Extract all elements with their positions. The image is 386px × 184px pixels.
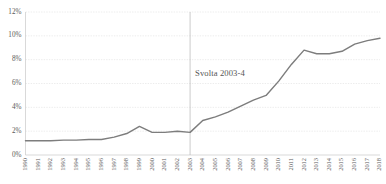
x-tick-label: 2001 (160, 158, 167, 171)
annotation-label: Svolta 2003-4 (195, 68, 245, 78)
y-tick-label: 6% (12, 79, 22, 87)
y-tick-label: 8% (12, 55, 22, 63)
x-tick-label: 2016 (350, 158, 357, 171)
x-tick-label: 2003 (186, 158, 193, 171)
x-tick-label: 1992 (46, 158, 53, 171)
x-tick-label: 2005 (211, 158, 218, 171)
line-chart: 0%2%4%6%8%10%12% 19901991199219931994199… (0, 0, 386, 184)
x-tick-label: 2002 (173, 158, 180, 171)
x-tick-label: 1997 (110, 157, 117, 171)
x-axis-tick-labels: 1990199119921993199419951996199719981999… (21, 157, 383, 171)
y-tick-label: 4% (12, 103, 22, 111)
x-tick-label: 2018 (375, 158, 382, 171)
y-tick-label: 12% (8, 8, 21, 16)
x-tick-label: 1991 (34, 158, 41, 171)
x-tick-label: 1996 (97, 158, 104, 171)
x-tick-label: 1990 (21, 158, 28, 171)
chart-container: 0%2%4%6%8%10%12% 19901991199219931994199… (0, 0, 386, 184)
x-tick-label: 2011 (287, 158, 294, 171)
x-tick-label: 2008 (249, 158, 256, 171)
y-tick-label: 10% (8, 31, 21, 39)
x-tick-label: 2015 (337, 158, 344, 171)
chart-background (0, 0, 386, 184)
x-tick-label: 1995 (84, 158, 91, 171)
x-tick-label: 2013 (312, 158, 319, 171)
y-tick-label: 2% (12, 127, 22, 135)
x-tick-label: 2017 (363, 157, 370, 171)
x-tick-label: 2009 (262, 158, 269, 171)
x-tick-label: 1998 (122, 158, 129, 171)
y-tick-label: 0% (12, 151, 22, 159)
x-tick-label: 1999 (135, 158, 142, 171)
x-tick-label: 1994 (72, 157, 79, 171)
x-tick-label: 2010 (274, 158, 281, 171)
x-tick-label: 2012 (300, 158, 307, 171)
x-tick-label: 2006 (224, 158, 231, 171)
x-tick-label: 2000 (148, 158, 155, 171)
x-tick-label: 2007 (236, 157, 243, 171)
x-tick-label: 2004 (198, 157, 205, 171)
x-tick-label: 2014 (325, 157, 332, 171)
x-tick-label: 1993 (59, 158, 66, 171)
